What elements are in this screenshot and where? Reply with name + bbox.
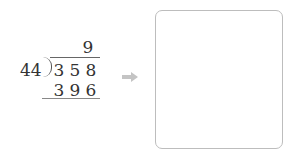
right-arrow-icon [122, 72, 138, 82]
quotient-digit: 9 [80, 38, 96, 56]
answer-box[interactable] [155, 10, 283, 149]
subtraction-line [42, 98, 100, 99]
dividend: 358 [51, 61, 99, 79]
division-vinculum [50, 57, 100, 58]
dividend-digit: 3 [51, 61, 67, 79]
dividend-digit: 8 [83, 61, 99, 79]
product-row: 396 [51, 81, 99, 99]
product-digit: 6 [83, 81, 99, 99]
product-digit: 9 [67, 81, 83, 99]
divisor: 44 [20, 61, 42, 79]
long-division-problem: 9 44 358 396 [0, 0, 120, 158]
dividend-digit: 5 [67, 61, 83, 79]
quotient: 9 [80, 38, 96, 56]
product-digit: 3 [51, 81, 67, 99]
